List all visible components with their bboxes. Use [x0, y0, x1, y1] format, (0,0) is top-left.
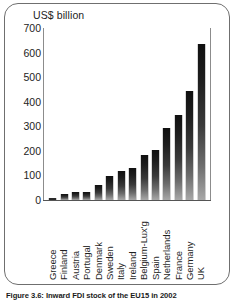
x-label-slot: Sweden	[104, 202, 115, 280]
bar-slot	[116, 28, 127, 200]
x-label-slot: Greece	[47, 202, 58, 280]
bar-slot	[161, 28, 172, 200]
bar-slot	[184, 28, 195, 200]
x-label-slot: Finland	[58, 202, 69, 280]
bar-slot	[195, 28, 206, 200]
x-label-ireland: Ireland	[128, 202, 138, 280]
figure-container: US$ billion 700 600 500 400 300 200 100 …	[0, 0, 234, 304]
y-tick-600: 600	[23, 47, 41, 59]
x-label-sweden: Sweden	[105, 202, 115, 280]
x-label-belgium-lux-g: Belgium-Lux'g	[139, 202, 149, 280]
x-label-slot: France	[173, 202, 184, 280]
bar-slot	[47, 28, 58, 200]
bar-slot	[127, 28, 138, 200]
bar-france	[174, 115, 183, 200]
x-label-slot: Ireland	[127, 202, 138, 280]
bar-portugal	[82, 192, 91, 200]
x-label-slot: Portugal	[81, 202, 92, 280]
x-label-denmark: Denmark	[94, 202, 104, 280]
y-tick-100: 100	[23, 169, 41, 181]
x-label-slot: Spain	[150, 202, 161, 280]
y-tick-0: 0	[35, 194, 41, 206]
x-label-netherlands: Netherlands	[162, 202, 172, 280]
plot-area	[44, 28, 210, 200]
bar-slot	[173, 28, 184, 200]
x-axis-category-labels: GreeceFinlandAustriaPortugalDenmarkSwede…	[44, 202, 210, 280]
bar-slot	[138, 28, 149, 200]
plot-right-rule	[210, 28, 211, 201]
bar-germany	[185, 91, 194, 200]
x-label-portugal: Portugal	[82, 202, 92, 280]
bar-slot	[70, 28, 81, 200]
bar-slot	[81, 28, 92, 200]
x-label-austria: Austria	[71, 202, 81, 280]
x-label-italy: Italy	[116, 202, 126, 280]
y-tick-400: 400	[23, 96, 41, 108]
x-label-slot: Belgium-Lux'g	[138, 202, 149, 280]
bar-finland	[60, 194, 69, 200]
x-axis-line	[43, 200, 211, 201]
bar-denmark	[94, 185, 103, 200]
bar-slot	[104, 28, 115, 200]
bar-italy	[117, 171, 126, 200]
y-axis-tick-labels: 700 600 500 400 300 200 100 0	[0, 0, 41, 304]
bar-belgium-lux-g	[140, 155, 149, 200]
bar-greece	[48, 198, 57, 200]
y-tick-200: 200	[23, 145, 41, 157]
x-label-uk: UK	[196, 202, 206, 280]
x-label-france: France	[174, 202, 184, 280]
bar-uk	[197, 44, 206, 200]
x-label-slot: Austria	[70, 202, 81, 280]
x-label-slot: Denmark	[93, 202, 104, 280]
x-label-germany: Germany	[185, 202, 195, 280]
bar-netherlands	[162, 128, 171, 200]
bar-slot	[93, 28, 104, 200]
bar-slot	[58, 28, 69, 200]
y-tick-500: 500	[23, 71, 41, 83]
x-label-slot: Germany	[184, 202, 195, 280]
bar-spain	[151, 150, 160, 200]
bar-austria	[71, 192, 80, 200]
caption-divider	[0, 288, 234, 289]
x-label-slot: UK	[195, 202, 206, 280]
figure-caption: Figure 3.6: Inward FDI stock of the EU15…	[6, 291, 232, 300]
x-label-slot: Italy	[116, 202, 127, 280]
x-label-finland: Finland	[59, 202, 69, 280]
y-tick-700: 700	[23, 22, 41, 34]
x-label-spain: Spain	[151, 202, 161, 280]
bar-sweden	[105, 176, 114, 200]
bar-series	[44, 28, 210, 200]
x-label-greece: Greece	[48, 202, 58, 280]
y-tick-300: 300	[23, 120, 41, 132]
bar-slot	[150, 28, 161, 200]
x-label-slot: Netherlands	[161, 202, 172, 280]
bar-ireland	[128, 168, 137, 200]
